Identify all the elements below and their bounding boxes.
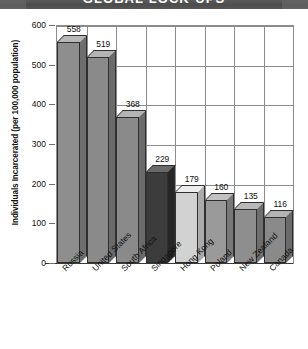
bar-value-label: 368 (118, 99, 148, 109)
y-tick-label: 500 (0, 60, 46, 70)
bar-side-face (109, 50, 116, 263)
chart-figure: GLOBAL LOCK-UPS Individuals Incarcerated… (0, 0, 308, 349)
bar-value-label: 229 (148, 154, 178, 164)
y-tick-mark (49, 263, 55, 264)
y-axis-title: Individuals Incarcerated (per 100,000 po… (11, 25, 20, 240)
bar-value-label: 135 (236, 191, 266, 201)
y-tick-mark (49, 223, 55, 224)
y-tick-label: 400 (0, 99, 46, 109)
y-tick-label: 100 (0, 218, 46, 228)
bar-front-face (57, 42, 80, 263)
x-axis-baseline (45, 263, 293, 264)
bar-value-label: 116 (266, 199, 296, 209)
title-banner: GLOBAL LOCK-UPS (0, 0, 308, 9)
bar-front-face (87, 57, 110, 263)
bar-russia (57, 35, 80, 263)
y-tick-mark (49, 104, 55, 105)
y-tick-label: 600 (0, 20, 46, 30)
y-tick-mark (49, 25, 55, 26)
y-tick-label: 200 (0, 179, 46, 189)
y-tick-label: 0 (0, 258, 46, 268)
y-tick-mark (49, 65, 55, 66)
bar-united-states (87, 50, 110, 263)
y-tick-label: 300 (0, 139, 46, 149)
bar-value-label: 160 (207, 182, 237, 192)
bar-value-label: 519 (89, 39, 119, 49)
bar-side-face (80, 35, 87, 263)
chart-title: GLOBAL LOCK-UPS (0, 0, 308, 7)
bar-value-label: 558 (59, 24, 89, 34)
y-tick-mark (49, 184, 55, 185)
y-tick-mark (49, 144, 55, 145)
bar-value-label: 179 (177, 174, 207, 184)
